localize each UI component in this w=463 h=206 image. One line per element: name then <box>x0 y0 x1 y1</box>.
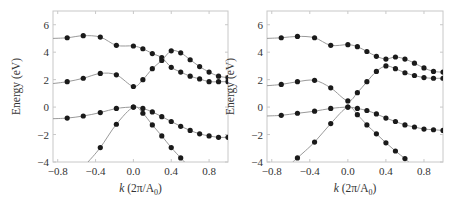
left-panel: −0.8−0.40.00.40.8−4−20246k (2π/A0)Energy… <box>10 11 231 197</box>
x-tick-label: 0.8 <box>417 165 431 177</box>
data-point <box>216 79 221 84</box>
data-point <box>393 54 398 59</box>
data-point <box>402 56 407 61</box>
data-point <box>374 54 379 59</box>
data-point <box>81 76 86 81</box>
data-point <box>98 110 103 115</box>
data-point <box>364 49 369 54</box>
data-point <box>440 128 445 133</box>
data-point <box>279 35 284 40</box>
data-point <box>131 43 136 48</box>
data-point <box>383 56 388 61</box>
data-point <box>140 77 145 82</box>
x-axis-label: k (2π/A0) <box>334 182 377 197</box>
data-point <box>431 69 436 74</box>
data-point <box>197 76 202 81</box>
data-point <box>159 114 164 119</box>
data-point <box>312 35 317 40</box>
data-point <box>440 69 445 74</box>
data-point <box>159 58 164 63</box>
data-point <box>206 79 211 84</box>
data-point <box>431 127 436 132</box>
data-point <box>65 79 70 84</box>
data-point <box>216 135 221 140</box>
data-point <box>421 65 426 70</box>
data-point <box>279 113 284 118</box>
data-point <box>178 50 183 55</box>
data-point <box>197 131 202 136</box>
data-point <box>188 128 193 133</box>
band-curve <box>88 107 184 162</box>
data-point <box>431 76 436 81</box>
data-point <box>312 78 317 83</box>
data-point <box>150 109 155 114</box>
data-point <box>295 34 300 39</box>
data-point <box>374 69 379 74</box>
data-point <box>206 133 211 138</box>
data-point <box>150 66 155 71</box>
data-point <box>169 119 174 124</box>
x-axis-label: k (2π/A0) <box>119 182 162 197</box>
y-axis-label: Energy (eV) <box>224 58 237 115</box>
y-tick-label: −2 <box>37 129 49 141</box>
x-tick-label: 0.0 <box>341 165 355 177</box>
band-curve <box>51 36 228 82</box>
data-point <box>188 57 193 62</box>
x-tick-label: −0.4 <box>86 165 106 177</box>
y-tick-label: −4 <box>251 156 263 168</box>
data-point <box>98 34 103 39</box>
data-point <box>295 79 300 84</box>
plot-frame <box>53 11 228 162</box>
data-point <box>178 69 183 74</box>
data-point <box>345 98 350 103</box>
data-point <box>65 115 70 120</box>
y-tick-label: 2 <box>258 74 264 86</box>
data-point <box>178 155 183 160</box>
data-point <box>114 122 119 127</box>
band-structure-figure: −0.8−0.40.00.40.8−4−20246k (2π/A0)Energy… <box>0 0 463 206</box>
x-tick-label: −0.8 <box>48 165 68 177</box>
data-point <box>421 75 426 80</box>
y-tick-label: 4 <box>44 46 50 58</box>
band-curve <box>265 66 443 101</box>
data-point <box>188 74 193 79</box>
data-point <box>355 44 360 49</box>
data-point <box>393 119 398 124</box>
x-tick-label: 0.4 <box>379 165 393 177</box>
y-tick-label: 6 <box>258 19 264 31</box>
data-point <box>312 109 317 114</box>
data-point <box>295 155 300 160</box>
data-point <box>150 51 155 56</box>
data-point <box>440 76 445 81</box>
data-point <box>140 111 145 116</box>
data-point <box>81 113 86 118</box>
y-tick-label: −2 <box>251 129 263 141</box>
x-tick-label: 0.0 <box>127 165 141 177</box>
data-point <box>355 106 360 111</box>
data-point <box>412 73 417 78</box>
y-tick-label: 4 <box>258 46 264 58</box>
data-point <box>197 64 202 69</box>
data-point <box>131 84 136 89</box>
data-point <box>169 65 174 70</box>
data-point <box>412 124 417 129</box>
data-point <box>383 115 388 120</box>
data-point <box>114 106 119 111</box>
data-point <box>114 72 119 77</box>
data-point <box>412 61 417 66</box>
x-tick-label: 0.4 <box>164 165 178 177</box>
data-point <box>131 104 136 109</box>
data-point <box>159 133 164 138</box>
data-point <box>169 48 174 53</box>
data-point <box>421 126 426 131</box>
band-curve <box>51 50 228 86</box>
data-point <box>216 74 221 79</box>
data-point <box>206 69 211 74</box>
band-curve <box>293 107 409 162</box>
data-point <box>328 43 333 48</box>
data-point <box>98 145 103 150</box>
data-point <box>328 85 333 90</box>
plot-frame <box>267 11 443 162</box>
y-tick-label: 6 <box>44 19 50 31</box>
y-tick-label: 0 <box>44 101 50 113</box>
